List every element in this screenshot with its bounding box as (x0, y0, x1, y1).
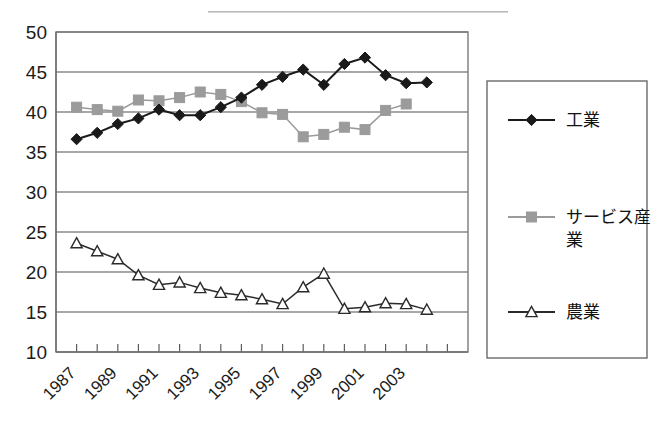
data-point-square (195, 87, 205, 97)
x-axis-tick-label: 1989 (80, 363, 120, 403)
data-point-square (527, 212, 537, 222)
data-point-square (257, 108, 267, 118)
data-point-square (113, 106, 123, 116)
x-axis-tick-label: 1991 (122, 363, 162, 403)
data-point-square (175, 93, 185, 103)
cropped-title-remnant (208, 11, 508, 13)
data-point-square (360, 125, 370, 135)
x-axis-tick-label: 2003 (369, 363, 409, 403)
x-axis-tick-label: 1987 (39, 363, 79, 403)
y-axis-tick-label: 15 (26, 302, 47, 323)
y-axis-tick-label: 25 (26, 222, 47, 243)
data-point-square (278, 109, 288, 119)
data-point-square (133, 95, 143, 105)
data-point-square (216, 89, 226, 99)
data-point-square (401, 99, 411, 109)
data-point-square (298, 132, 308, 142)
x-axis-tick-label: 1995 (204, 363, 244, 403)
x-axis-labels: 198719891991199319951997199920012003 (39, 363, 409, 403)
x-axis-tick-label: 2001 (328, 363, 368, 403)
y-axis-tick-label: 35 (26, 142, 47, 163)
y-axis-labels: 504540353025201510 (26, 22, 47, 363)
legend: 工業サービス産業農業 (487, 81, 651, 358)
data-point-square (72, 102, 82, 112)
y-axis-tick-label: 45 (26, 62, 47, 83)
legend-label: 工業 (566, 110, 600, 130)
legend-label: 業 (566, 230, 583, 250)
line-chart: 504540353025201510 198719891991199319951… (0, 0, 661, 424)
chart-container: 504540353025201510 198719891991199319951… (0, 0, 661, 424)
data-point-square (92, 105, 102, 115)
y-axis-tick-label: 20 (26, 262, 47, 283)
y-axis-tick-label: 50 (26, 22, 47, 43)
y-axis-tick-label: 10 (26, 342, 47, 363)
legend-label: サービス産 (566, 207, 651, 227)
data-point-square (381, 105, 391, 115)
data-point-square (339, 122, 349, 132)
x-axis-tick-label: 1993 (163, 363, 203, 403)
data-point-square (319, 129, 329, 139)
legend-label: 農業 (566, 302, 600, 322)
y-axis-tick-label: 30 (26, 182, 47, 203)
x-axis-tick-label: 1997 (245, 363, 285, 403)
x-axis-tick-label: 1999 (286, 363, 326, 403)
y-axis-tick-label: 40 (26, 102, 47, 123)
